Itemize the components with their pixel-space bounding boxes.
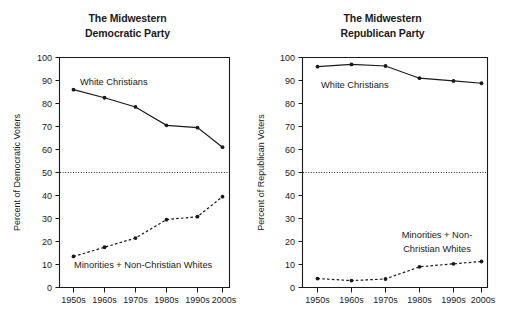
chart-svg-democratic: 100 90 80 70 60 50 40 30 20 10 0 Percent…	[0, 0, 255, 323]
x-tick-label: 2000s	[212, 295, 237, 305]
series-line-minorities	[318, 262, 482, 281]
series-annotation-minorities: Minorities + Non-Christian Whites	[74, 260, 213, 270]
x-axis-labels-democratic: 1950s 1960s 1970s 1980s 1990s 2000s	[61, 295, 237, 305]
data-point-marker	[350, 279, 354, 283]
y-tick-label: 10	[285, 260, 295, 270]
data-point-marker	[72, 255, 76, 259]
y-axis-title-republican: Percent of Republican Voters	[256, 114, 266, 231]
chart-svg-republican: 100 90 80 70 60 50 40 30 20 10 0 Percent…	[255, 0, 510, 323]
data-point-marker	[134, 236, 138, 240]
y-tick-label: 50	[42, 168, 52, 178]
plot-area-democratic: 100 90 80 70 60 50 40 30 20 10 0 Percent…	[0, 0, 255, 323]
series-annotation-minorities-line1: Minorities + Non-	[402, 230, 473, 240]
y-axis-ticks-republican	[299, 58, 303, 288]
data-point-marker	[72, 88, 76, 92]
y-tick-label: 60	[285, 145, 295, 155]
data-point-marker	[165, 123, 169, 127]
data-point-marker	[316, 277, 320, 281]
x-tick-label: 1970s	[123, 295, 148, 305]
y-tick-label: 90	[285, 76, 295, 86]
data-point-marker	[418, 265, 422, 269]
y-tick-label: 30	[42, 214, 52, 224]
x-tick-label: 1960s	[339, 295, 364, 305]
y-tick-label: 10	[42, 260, 52, 270]
series-group-democratic	[72, 88, 225, 259]
y-tick-label: 100	[37, 53, 52, 63]
y-tick-label: 100	[280, 53, 295, 63]
y-axis-title-democratic: Percent of Democratic Voters	[12, 113, 22, 231]
data-point-marker	[452, 262, 456, 266]
data-point-marker	[103, 245, 107, 249]
data-point-marker	[384, 277, 388, 281]
y-tick-label: 50	[285, 168, 295, 178]
y-tick-label: 0	[290, 283, 295, 293]
y-axis-labels-democratic: 100 90 80 70 60 50 40 30 20 10 0	[37, 53, 52, 293]
data-point-marker	[196, 215, 200, 219]
x-tick-label: 1990s	[185, 295, 210, 305]
data-point-marker	[480, 260, 484, 264]
y-tick-label: 80	[285, 99, 295, 109]
y-tick-label: 70	[285, 122, 295, 132]
series-annotation-white-christians: White Christians	[321, 80, 389, 90]
x-tick-label: 1950s	[61, 295, 86, 305]
y-tick-label: 80	[42, 99, 52, 109]
x-axis-ticks-democratic	[74, 288, 223, 293]
x-tick-label: 1970s	[373, 295, 398, 305]
x-tick-label: 1950s	[305, 295, 330, 305]
y-axis-labels-republican: 100 90 80 70 60 50 40 30 20 10 0	[280, 53, 295, 293]
y-tick-label: 90	[42, 76, 52, 86]
figure-root: The Midwestern Democratic Party	[0, 0, 510, 323]
data-point-marker	[452, 79, 456, 83]
x-tick-label: 1960s	[92, 295, 117, 305]
chart-panel-democratic: The Midwestern Democratic Party	[0, 0, 255, 323]
series-line-minorities	[74, 197, 223, 257]
data-point-marker	[221, 195, 225, 199]
series-annotation-white-christians: White Christians	[80, 77, 148, 87]
y-tick-label: 70	[42, 122, 52, 132]
x-tick-label: 1980s	[407, 295, 432, 305]
series-markers-minorities	[72, 195, 225, 259]
data-point-marker	[103, 96, 107, 100]
data-point-marker	[196, 126, 200, 130]
data-point-marker	[418, 76, 422, 80]
y-tick-label: 20	[42, 237, 52, 247]
series-annotation-minorities-line2: Christian Whites	[403, 244, 471, 254]
data-point-marker	[316, 65, 320, 69]
y-tick-label: 30	[285, 214, 295, 224]
data-point-marker	[350, 63, 354, 67]
plot-area-republican: 100 90 80 70 60 50 40 30 20 10 0 Percent…	[255, 0, 510, 323]
data-point-marker	[221, 145, 225, 149]
y-axis-ticks-democratic	[56, 58, 60, 288]
data-point-marker	[480, 81, 484, 85]
y-tick-label: 60	[42, 145, 52, 155]
x-axis-labels-republican: 1950s 1960s 1970s 1980s 1990s 2000s	[305, 295, 496, 305]
series-markers-white-christians	[72, 88, 225, 149]
series-line-white-christians	[74, 90, 223, 148]
y-tick-label: 40	[42, 191, 52, 201]
data-point-marker	[384, 64, 388, 68]
data-point-marker	[134, 105, 138, 109]
y-tick-label: 20	[285, 237, 295, 247]
x-axis-ticks-republican	[318, 288, 482, 293]
x-tick-label: 1990s	[441, 295, 466, 305]
x-tick-label: 2000s	[471, 295, 496, 305]
x-tick-label: 1980s	[154, 295, 179, 305]
data-point-marker	[165, 218, 169, 222]
y-tick-label: 0	[47, 283, 52, 293]
y-tick-label: 40	[285, 191, 295, 201]
series-markers-minorities	[316, 260, 484, 283]
chart-panel-republican: The Midwestern Republican Party	[255, 0, 510, 323]
